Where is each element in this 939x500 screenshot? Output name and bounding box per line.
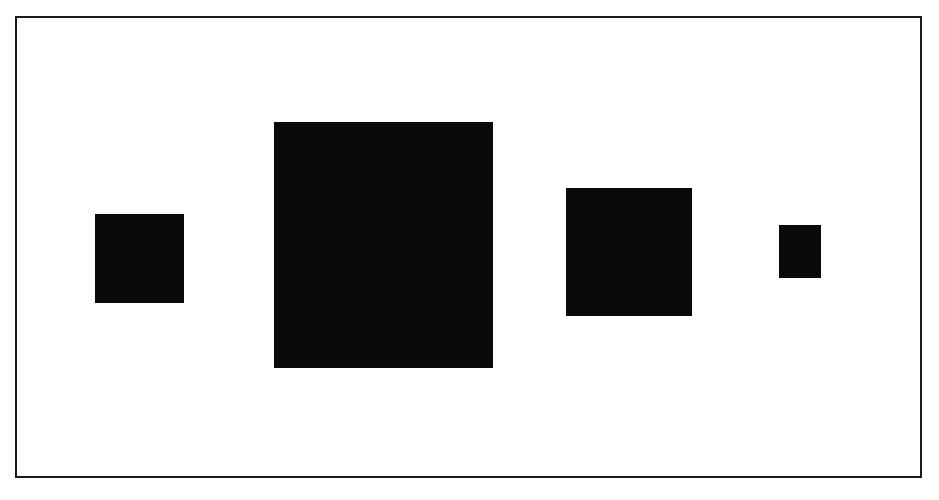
diagram-canvas — [0, 0, 939, 500]
medium-square — [566, 188, 692, 316]
large-square — [274, 122, 493, 368]
small-square-left — [95, 214, 184, 303]
tiny-square-right — [779, 225, 821, 278]
